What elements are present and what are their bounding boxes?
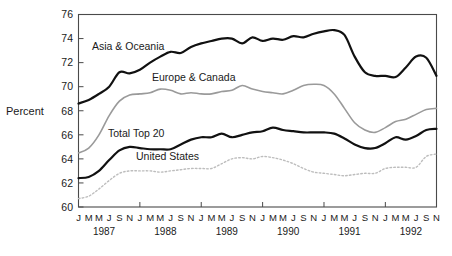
x-tick-month-label: N bbox=[433, 212, 440, 223]
x-tick-month-label: N bbox=[310, 212, 317, 223]
x-tick-month-label: M bbox=[156, 212, 164, 223]
x-tick-month-label: S bbox=[423, 212, 429, 223]
x-tick-month-label: J bbox=[230, 212, 235, 223]
series-annotation-europe-canada: Europe & Canada bbox=[152, 71, 236, 83]
x-tick-month-label: J bbox=[199, 212, 204, 223]
x-tick-month-label: S bbox=[116, 212, 122, 223]
series-annotation-total-top-20: Total Top 20 bbox=[108, 127, 165, 139]
x-tick-month-label: J bbox=[168, 212, 173, 223]
series-line-united-states bbox=[79, 154, 437, 199]
x-tick-month-label: N bbox=[249, 212, 256, 223]
x-axis-year-label: 1992 bbox=[400, 226, 423, 237]
x-tick-month-label: M bbox=[146, 212, 154, 223]
x-tick-month-label: M bbox=[95, 212, 103, 223]
series-annotation-asia-oceania: Asia & Oceania bbox=[92, 40, 165, 52]
y-tick-label: 76 bbox=[61, 8, 73, 20]
x-tick-month-label: M bbox=[279, 212, 287, 223]
y-axis-tick-labels: 606264666870727476 bbox=[61, 8, 73, 213]
x-tick-month-label: J bbox=[291, 212, 296, 223]
x-tick-month-label: M bbox=[392, 212, 400, 223]
x-tick-month-label: M bbox=[269, 212, 277, 223]
x-tick-month-label: N bbox=[372, 212, 379, 223]
y-tick-label: 74 bbox=[61, 32, 73, 44]
x-axis-year-labels: 198719881989199019911992 bbox=[93, 226, 423, 237]
series-line-europe-canada bbox=[79, 84, 437, 153]
x-axis-year-label: 1988 bbox=[154, 226, 177, 237]
x-axis-year-label: 1987 bbox=[93, 226, 116, 237]
x-tick-month-label: J bbox=[414, 212, 419, 223]
x-tick-month-label: N bbox=[126, 212, 133, 223]
x-axis-year-label: 1991 bbox=[338, 226, 361, 237]
x-axis-month-labels: JMMJSNJMMJSNJMMJSNJMMJSNJMMJSNJMMJSN bbox=[76, 212, 440, 223]
x-axis-year-label: 1989 bbox=[216, 226, 239, 237]
x-tick-month-label: N bbox=[188, 212, 195, 223]
x-tick-month-label: S bbox=[178, 212, 184, 223]
x-tick-month-label: J bbox=[352, 212, 357, 223]
chart-container: Percent 606264666870727476 JMMJSNJMMJSNJ… bbox=[0, 0, 452, 256]
series-inline-labels: Asia & OceaniaEurope & CanadaTotal Top 2… bbox=[92, 40, 236, 162]
y-tick-label: 70 bbox=[61, 80, 73, 92]
x-tick-month-label: M bbox=[330, 212, 338, 223]
x-tick-month-label: J bbox=[383, 212, 388, 223]
x-tick-month-label: J bbox=[107, 212, 112, 223]
x-tick-month-label: M bbox=[402, 212, 410, 223]
y-tick-label: 66 bbox=[61, 129, 73, 141]
x-tick-month-label: S bbox=[239, 212, 245, 223]
series-lines bbox=[79, 30, 437, 199]
x-tick-month-label: S bbox=[362, 212, 368, 223]
x-tick-month-label: M bbox=[218, 212, 226, 223]
y-tick-label: 62 bbox=[61, 177, 73, 189]
x-tick-month-label: M bbox=[85, 212, 93, 223]
x-tick-month-label: M bbox=[208, 212, 216, 223]
x-tick-month-label: J bbox=[76, 212, 81, 223]
x-tick-month-label: S bbox=[300, 212, 306, 223]
y-tick-label: 72 bbox=[61, 56, 73, 68]
x-tick-month-label: M bbox=[340, 212, 348, 223]
y-tick-label: 64 bbox=[61, 153, 73, 165]
x-tick-month-label: J bbox=[137, 212, 142, 223]
line-chart-svg: 606264666870727476 JMMJSNJMMJSNJMMJSNJMM… bbox=[0, 0, 452, 256]
y-tick-label: 68 bbox=[61, 105, 73, 117]
x-tick-month-label: J bbox=[322, 212, 327, 223]
x-tick-month-label: J bbox=[260, 212, 265, 223]
y-axis-tick-marks bbox=[79, 39, 84, 207]
y-tick-label: 60 bbox=[61, 201, 73, 213]
series-annotation-united-states: United States bbox=[136, 150, 199, 162]
x-axis-year-label: 1990 bbox=[277, 226, 300, 237]
x-axis-tick-marks bbox=[79, 202, 386, 207]
